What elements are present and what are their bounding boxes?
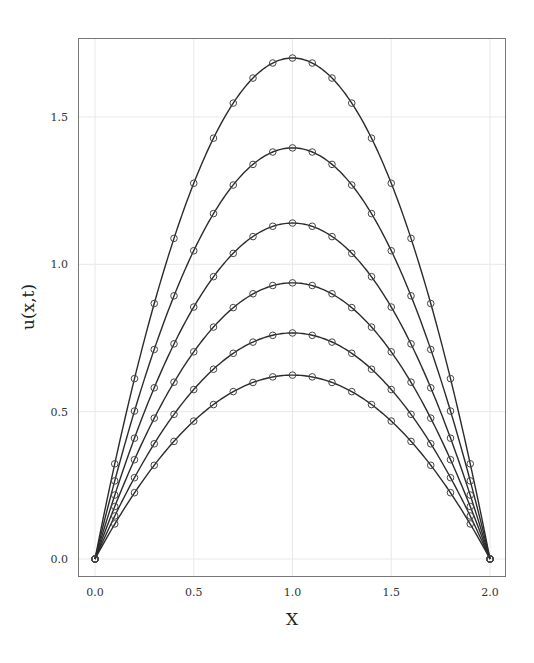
x-axis-label: X [286, 609, 299, 629]
x-tick-label: 0.5 [185, 586, 203, 599]
x-tick-label: 0.0 [86, 586, 104, 599]
y-tick-label: 0.0 [51, 553, 69, 566]
y-axis-label: u(x,t) [18, 284, 38, 330]
chart-background [0, 0, 534, 663]
x-tick-label: 2.0 [481, 586, 499, 599]
y-tick-label: 1.5 [51, 111, 69, 124]
x-tick-label: 1.0 [284, 586, 302, 599]
line-chart: 0.00.51.01.52.0 0.00.51.01.5 X u(x,t) [0, 0, 534, 663]
x-tick-label: 1.5 [383, 586, 401, 599]
y-tick-label: 0.5 [51, 406, 69, 419]
y-tick-label: 1.0 [51, 258, 69, 271]
